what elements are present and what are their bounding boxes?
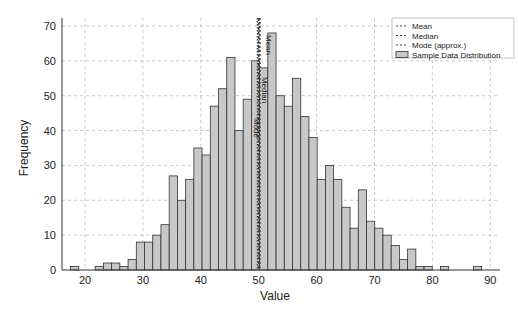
x-tick-label: 80	[426, 274, 438, 286]
chart-canvas: MeanMedianMode 2030405060708090 01020304…	[0, 0, 518, 314]
histogram-bar	[243, 99, 251, 270]
y-tick-label: 60	[44, 55, 56, 67]
histogram-bar	[202, 155, 210, 270]
histogram-bar	[408, 249, 416, 270]
histogram-bar	[301, 117, 309, 270]
legend-item-label: Mean	[412, 22, 432, 31]
y-tick-label: 70	[44, 20, 56, 32]
histogram-bar	[293, 78, 301, 270]
x-axis-ticks: 2030405060708090	[79, 274, 497, 286]
x-tick-label: 50	[253, 274, 265, 286]
histogram-bar	[309, 138, 317, 270]
ref-line-label: Mode	[252, 118, 261, 139]
histogram-bar	[161, 225, 169, 270]
histogram-bar	[112, 263, 120, 270]
histogram-bar	[103, 263, 111, 270]
legend-item-label: Mode (approx.)	[412, 41, 467, 50]
histogram-bar	[367, 221, 375, 270]
histogram-bar	[194, 148, 202, 270]
histogram-bar	[284, 106, 292, 270]
legend-item-label: Sample Data Distribution	[412, 51, 500, 60]
y-axis-ticks: 010203040506070	[44, 20, 56, 276]
histogram-bars	[71, 33, 482, 270]
histogram-bar	[473, 267, 481, 270]
x-axis-label: Value	[260, 289, 290, 303]
histogram-bar	[441, 267, 449, 270]
histogram-bar	[169, 176, 177, 270]
x-tick-label: 90	[484, 274, 496, 286]
histogram-bar	[235, 131, 243, 270]
histogram-bar	[95, 267, 103, 270]
legend: MeanMedianMode (approx.)Sample Data Dist…	[392, 18, 514, 60]
histogram-bar	[334, 179, 342, 270]
histogram-bar	[268, 33, 276, 270]
histogram-bar	[276, 96, 284, 270]
y-tick-label: 40	[44, 125, 56, 137]
y-tick-label: 20	[44, 194, 56, 206]
histogram-bar	[375, 228, 383, 270]
histogram-bar	[210, 106, 218, 270]
histogram-bar	[227, 57, 235, 270]
histogram-bar	[325, 165, 333, 270]
histogram-bar	[317, 179, 325, 270]
histogram-bar	[136, 242, 144, 270]
x-tick-label: 20	[79, 274, 91, 286]
y-tick-label: 0	[50, 264, 56, 276]
x-tick-label: 60	[310, 274, 322, 286]
histogram-bar	[71, 267, 79, 270]
ref-line-label: Mean	[264, 35, 273, 55]
histogram-bar	[383, 235, 391, 270]
x-tick-label: 40	[195, 274, 207, 286]
histogram-bar	[177, 200, 185, 270]
legend-item-label: Median	[412, 32, 438, 41]
y-tick-label: 10	[44, 229, 56, 241]
histogram-bar	[145, 242, 153, 270]
ref-line-label: Median	[260, 77, 269, 103]
histogram-bar	[391, 246, 399, 270]
y-tick-label: 30	[44, 159, 56, 171]
histogram-bar	[399, 260, 407, 270]
histogram-bar	[424, 267, 432, 270]
y-tick-label: 50	[44, 90, 56, 102]
histogram-chart: MeanMedianMode 2030405060708090 01020304…	[0, 0, 518, 314]
histogram-bar	[342, 207, 350, 270]
x-tick-label: 70	[368, 274, 380, 286]
histogram-bar	[153, 235, 161, 270]
histogram-bar	[358, 190, 366, 270]
y-axis-label: Frequency	[17, 120, 31, 177]
histogram-bar	[186, 179, 194, 270]
histogram-bar	[120, 267, 128, 270]
x-tick-label: 30	[137, 274, 149, 286]
histogram-bar	[350, 228, 358, 270]
histogram-bar	[219, 89, 227, 270]
histogram-bar	[416, 267, 424, 270]
histogram-bar	[128, 260, 136, 270]
legend-swatch-box	[396, 52, 408, 58]
